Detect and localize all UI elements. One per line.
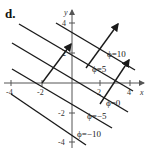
y-axis-label: y xyxy=(63,8,68,17)
label-phi-10: ϕ=10 xyxy=(107,49,126,59)
label-phi-0: ϕ=0 xyxy=(106,98,121,108)
level-line-phi-neg10 xyxy=(11,94,86,145)
equipotential-diagram: -4 -2 2 4 4 2 -2 -4 x y d. ϕ=10 ϕ=5 ϕ=0 … xyxy=(0,0,145,152)
y-tick-neg2: -2 xyxy=(58,109,65,118)
x-tick-neg2: -2 xyxy=(37,88,44,97)
x-axis-label: x xyxy=(139,88,144,97)
label-phi-neg5: ϕ=−5 xyxy=(87,111,107,121)
label-phi-5: ϕ=5 xyxy=(92,64,107,74)
gradient-arrow-2 xyxy=(86,24,118,68)
level-line-phi-10 xyxy=(56,23,135,70)
axes xyxy=(4,10,144,148)
label-phi-neg10: ϕ=−10 xyxy=(77,129,101,139)
x-tick-neg4: -4 xyxy=(6,88,13,97)
y-tick-neg4: -4 xyxy=(58,138,65,147)
part-label: d. xyxy=(5,6,15,21)
